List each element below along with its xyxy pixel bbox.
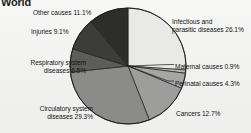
slice-label-cancers: Cancers 12.7% — [176, 110, 220, 118]
slice-label-respiratory-line1: Respiratory system — [2, 59, 86, 67]
slice-label-circulatory-line2: diseases 29.3% — [4, 113, 93, 121]
slice-label-infectious-line2: parasitic diseases 26.1% — [172, 26, 244, 34]
slice-label-respiratory-line2: diseases 6.5% — [2, 67, 86, 75]
slice-label-circulatory-line1: Circulatory system — [4, 105, 93, 113]
slice-label-circulatory-system-diseases: Circulatory system diseases 29.3% — [4, 105, 93, 120]
slice-label-maternal-causes: Maternal causes 0.9% — [175, 63, 239, 71]
slice-label-injuries: Injuries 9.1% — [31, 28, 68, 36]
slice-label-respiratory-system-diseases: Respiratory system diseases 6.5% — [2, 59, 86, 74]
slice-label-infectious-and-parasitic-diseases: Infectious and parasitic diseases 26.1% — [172, 18, 244, 33]
slice-label-other-causes: Other causes 11.1% — [33, 9, 91, 17]
slice-label-perinatal-causes: Perinatal causes 4.3% — [175, 80, 240, 88]
pie-chart-figure: World Other causes 11.1% Injuries 9.1% R… — [0, 0, 251, 133]
slice-label-infectious-line1: Infectious and — [172, 18, 244, 26]
